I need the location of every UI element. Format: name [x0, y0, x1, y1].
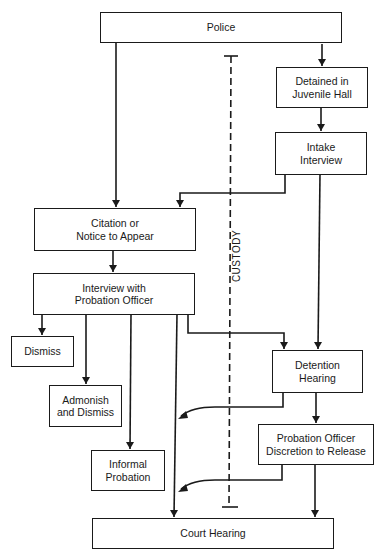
node-court-hearing: Court Hearing	[92, 518, 334, 549]
node-detention-label: Detention Hearing	[295, 359, 340, 384]
edge-intake-citation	[180, 174, 285, 207]
node-po-discretion-label: Probation Officer Discretion to Release	[266, 432, 366, 457]
node-informal-label: Informal Probation	[106, 458, 151, 483]
node-detained-label: Detained in Juvenile Hall	[292, 75, 352, 100]
node-detained-in-juvenile-hall: Detained in Juvenile Hall	[276, 67, 368, 108]
edge-po-release	[181, 464, 282, 489]
edge-interview-detention	[188, 314, 284, 349]
node-court-label: Court Hearing	[180, 527, 245, 540]
node-informal-probation: Informal Probation	[91, 450, 165, 491]
edge-interview-informal	[130, 314, 131, 449]
node-police: Police	[100, 12, 342, 43]
edge-detention-release	[181, 392, 283, 416]
node-admonish-and-dismiss: Admonish and Dismiss	[49, 385, 122, 427]
node-intake-interview: Intake Interview	[275, 132, 367, 175]
edge-interview-court	[174, 314, 177, 517]
node-admonish-label: Admonish and Dismiss	[57, 394, 114, 419]
node-po-discretion-to-release: Probation Officer Discretion to Release	[258, 424, 374, 465]
node-citation-label: Citation or Notice to Appear	[76, 217, 154, 242]
node-citation: Citation or Notice to Appear	[34, 208, 196, 251]
node-police-label: Police	[207, 21, 236, 34]
custody-label: CUSTODY	[231, 230, 242, 282]
node-interview-label: Interview with Probation Officer	[75, 282, 154, 307]
edge-intake-detention	[318, 174, 320, 349]
node-interview-probation-officer: Interview with Probation Officer	[33, 273, 195, 315]
node-dismiss: Dismiss	[11, 336, 74, 367]
node-detention-hearing: Detention Hearing	[272, 350, 363, 393]
node-intake-label: Intake Interview	[300, 141, 342, 166]
node-dismiss-label: Dismiss	[24, 345, 61, 358]
